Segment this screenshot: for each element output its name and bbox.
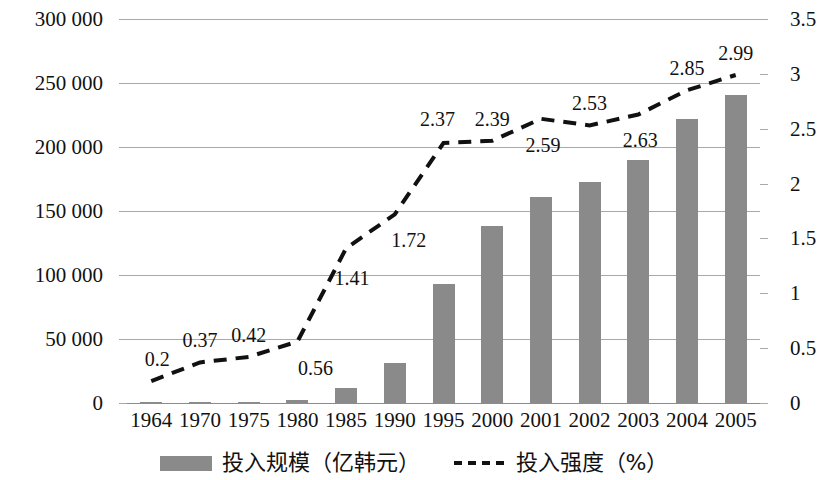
left-axis-tick-50000 [119,339,127,340]
left-axis-tick-200000 [119,147,127,148]
right-axis-tick-0 [760,403,768,404]
x-axis-tick-label: 1975 [228,408,270,432]
right-axis-tick-label: 3 [776,64,801,85]
left-axis-tick-label: 0 [93,393,120,414]
legend-entry-bar: 投入规模（亿韩元） [160,451,420,475]
legend-label-line: 投入强度（%） [516,451,669,475]
data-point-label: 2.85 [669,58,704,78]
right-axis-tick-1.5 [760,238,768,239]
data-point-label: 1.72 [391,230,426,250]
line-series-投入强度 [127,19,760,403]
x-axis-tick-label: 1980 [276,408,318,432]
data-point-label: 0.56 [298,358,333,378]
right-axis-tick-label: 1 [776,283,801,304]
left-axis-tick-label: 150 000 [35,201,119,222]
legend-label-bar: 投入规模（亿韩元） [222,451,420,475]
data-point-label: 0.37 [183,330,218,350]
right-axis-tick-0.5 [760,348,768,349]
left-axis-tick-label: 250 000 [35,73,119,94]
x-axis-labels: 1964197019751980198519901995200020012002… [127,408,760,438]
data-point-label: 2.63 [623,130,658,150]
right-axis-labels: 00.511.522.533.5 [776,19,828,403]
right-axis-tick-label: 0 [776,393,801,414]
left-axis-tick-label: 100 000 [35,265,119,286]
x-axis-tick-label: 1964 [130,408,172,432]
x-axis-tick-label: 1990 [374,408,416,432]
data-point-label: 2.53 [572,93,607,113]
data-point-label: 2.39 [475,109,510,129]
left-axis-tick-250000 [119,83,127,84]
left-axis-tick-100000 [119,275,127,276]
data-point-label: 0.42 [231,325,266,345]
right-axis-tick-2.5 [760,129,768,130]
data-point-label: 1.41 [335,268,370,288]
right-axis-tick-2 [760,184,768,185]
right-axis-tick-3 [760,74,768,75]
x-axis-tick-label: 1985 [325,408,367,432]
legend-entry-line: 投入强度（%） [454,451,669,475]
data-point-label: 2.37 [420,109,455,129]
data-point-label: 2.59 [525,135,560,155]
left-axis-tick-label: 300 000 [35,9,119,30]
right-axis-tick-label: 0.5 [776,338,816,359]
left-axis-tick-label: 200 000 [35,137,119,158]
chart-legend: 投入规模（亿韩元） 投入强度（%） [0,446,828,480]
right-axis-tick-label: 1.5 [776,228,816,249]
left-axis-tick-300000 [119,19,127,20]
gridline-0 [127,403,760,404]
left-axis-tick-150000 [119,211,127,212]
left-axis-tick-label: 50 000 [45,329,119,350]
left-axis-labels: 050 000100 000150 000200 000250 000300 0… [0,19,119,403]
x-axis-tick-label: 2001 [520,408,562,432]
right-axis-tick-3.5 [760,19,768,20]
plot-area: 0.20.370.420.561.411.722.372.392.592.532… [127,19,760,403]
left-axis-tick-0 [119,403,127,404]
bar-swatch-icon [160,456,212,471]
data-point-label: 2.99 [718,43,753,63]
right-axis-tick-label: 3.5 [776,9,816,30]
x-axis-tick-label: 2004 [666,408,708,432]
x-axis-tick-label: 2002 [569,408,611,432]
x-axis-tick-label: 2000 [471,408,513,432]
x-axis-tick-label: 1970 [179,408,221,432]
data-point-label: 0.2 [145,349,170,369]
dashed-line-swatch-icon [454,461,506,465]
x-axis-tick-label: 2005 [715,408,757,432]
chart-container: 050 000100 000150 000200 000250 000300 0… [0,0,828,480]
right-axis-tick-label: 2 [776,174,801,195]
right-axis-tick-label: 2.5 [776,119,816,140]
x-axis-tick-label: 1995 [423,408,465,432]
x-axis-tick-label: 2003 [617,408,659,432]
right-axis-tick-1 [760,293,768,294]
